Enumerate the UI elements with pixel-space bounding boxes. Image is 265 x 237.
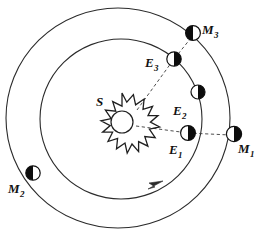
label-e2-subscript: 2 <box>181 111 187 121</box>
marker-m2-shadow <box>26 166 33 180</box>
label-m2-subscript: 2 <box>19 189 25 199</box>
arrowhead-icon <box>148 181 163 189</box>
label-m1: M <box>237 141 250 156</box>
label-e1-subscript: 1 <box>178 150 183 160</box>
orbit-direction-arrow <box>148 181 163 189</box>
label-m3-subscript: 3 <box>213 30 219 40</box>
label-m1-subscript: 1 <box>250 149 255 159</box>
sun-core-circle <box>111 111 133 133</box>
marker-m2 <box>26 166 40 180</box>
label-m2: M <box>7 181 20 196</box>
label-sun: S <box>96 94 103 109</box>
label-m3: M <box>201 22 214 37</box>
marker-m1 <box>226 126 241 141</box>
sun-symbol <box>101 93 160 153</box>
marker-e2-shadow <box>198 85 205 99</box>
marker-m1-shadow <box>234 126 242 141</box>
sight-line-sun-e3-m3 <box>137 38 191 110</box>
marker-m3-shadow <box>186 26 193 41</box>
label-e2: E <box>172 103 182 118</box>
marker-e2 <box>191 85 205 99</box>
label-group: S E 1 E 2 E 3 M 1 M 2 M 3 <box>7 22 255 199</box>
diagram-canvas: S E 1 E 2 E 3 M 1 M 2 M 3 <box>0 0 265 237</box>
marker-e3 <box>167 52 181 66</box>
label-e3-subscript: 3 <box>153 63 159 73</box>
label-e1: E <box>168 142 178 157</box>
marker-m3 <box>186 26 201 41</box>
marker-e1 <box>181 126 196 141</box>
marker-e1-shadow <box>188 126 195 141</box>
orbit-diagram: S E 1 E 2 E 3 M 1 M 2 M 3 <box>0 0 265 237</box>
label-e3: E <box>144 55 154 70</box>
